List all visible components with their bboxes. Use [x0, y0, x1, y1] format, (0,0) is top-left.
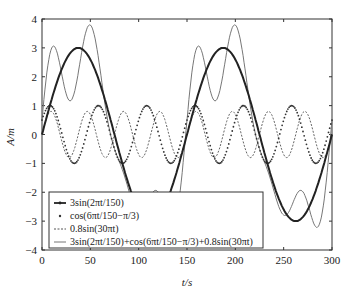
- legend-swatch-2: [59, 215, 61, 217]
- chart: 050100150200250300−4−3−2−101234 A/m t/s …: [0, 0, 352, 291]
- x-tick-label: 200: [227, 254, 244, 266]
- y-tick-label: −1: [25, 157, 37, 169]
- legend-marker-1: [59, 202, 62, 205]
- legend-label-4: 3sin(2πt/150)+cos(6πt/150−π/3)+0.8sin(30…: [70, 236, 253, 248]
- x-tick-label: 300: [324, 254, 341, 266]
- legend-label-2: cos(6πt/150−π/3): [70, 210, 139, 222]
- x-tick-label: 0: [39, 254, 45, 266]
- y-tick-label: 1: [32, 100, 38, 112]
- y-tick-label: 0: [32, 129, 38, 141]
- y-tick-label: −2: [25, 186, 37, 198]
- y-tick-label: 3: [32, 42, 38, 54]
- x-tick-label: 50: [85, 254, 97, 266]
- y-tick-label: 2: [32, 71, 38, 83]
- legend-label-3: 0.8sin(30πt): [70, 223, 119, 235]
- x-axis-label: t/s: [182, 276, 192, 288]
- x-tick-label: 150: [179, 254, 196, 266]
- x-tick-label: 250: [275, 254, 292, 266]
- legend-label-1: 3sin(2πt/150): [70, 197, 124, 209]
- legend: 3sin(2πt/150) cos(6πt/150−π/3) 0.8sin(30…: [49, 192, 263, 248]
- y-tick-label: −4: [25, 244, 37, 256]
- x-tick-label: 100: [130, 254, 147, 266]
- y-axis-label: A/m: [4, 128, 16, 147]
- y-tick-label: 4: [32, 13, 38, 25]
- y-tick-label: −3: [25, 215, 37, 227]
